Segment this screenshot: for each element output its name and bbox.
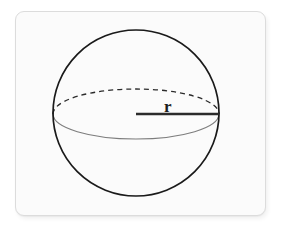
equator-visible-arc [53,114,219,139]
sphere-diagram: r [0,0,282,233]
equator-hidden-arc [53,89,219,114]
radius-label: r [164,97,172,116]
figure-canvas: r [0,0,282,233]
